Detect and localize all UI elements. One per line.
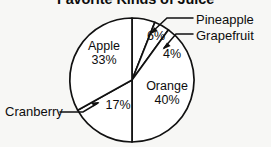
slice-label-orange: Orange 40%	[139, 80, 195, 107]
callout-label-pineapple: Pineapple	[196, 13, 254, 27]
callout-label-grapefruit: Grapefruit	[196, 29, 254, 43]
slice-label-cranberry-value: 17%	[103, 99, 133, 112]
slice-label-grapefruit-value: 4%	[159, 48, 185, 61]
slice-label-orange-value: 40%	[154, 93, 179, 107]
slice-label-orange-name: Orange	[146, 79, 188, 93]
slice-label-apple-name: Apple	[88, 39, 120, 53]
pie-chart-figure: Favorite Kinds of Juice Apple 33% Orange…	[0, 0, 271, 147]
slice-label-pineapple-value: 6%	[143, 30, 169, 43]
slice-label-apple-value: 33%	[91, 53, 116, 67]
callout-label-cranberry: Cranberry	[5, 105, 63, 119]
slice-label-apple: Apple 33%	[78, 40, 130, 67]
